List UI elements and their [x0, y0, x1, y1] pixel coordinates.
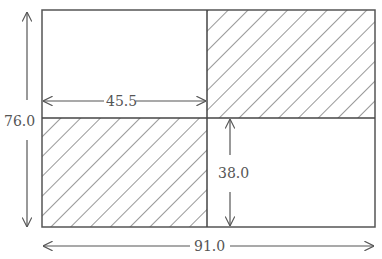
dimension-half-width: 45.5: [43, 93, 206, 109]
label-half-width: 45.5: [106, 93, 137, 109]
label-total-height: 76.0: [4, 113, 35, 129]
dimension-half-height: 38.0: [218, 119, 249, 226]
region-bottom-left: [42, 118, 207, 227]
dimension-total-height: 76.0: [4, 12, 35, 227]
region-top-right: [207, 10, 375, 118]
label-half-height: 38.0: [218, 165, 249, 181]
label-total-width: 91.0: [194, 238, 225, 254]
dimension-total-width: 91.0: [43, 238, 374, 254]
dimension-diagram: 76.0 45.5 38.0 91.0: [0, 0, 382, 259]
